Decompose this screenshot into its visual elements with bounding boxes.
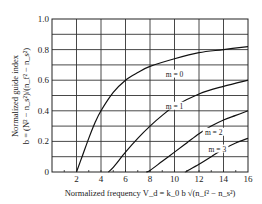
- mode-label: m = 0: [166, 70, 184, 79]
- x-tick-label: 16: [244, 174, 254, 184]
- x-tick-label: 4: [99, 174, 104, 184]
- y-axis-label-line2: b = (N² − n_s²)/(n_f² − n_s²): [21, 48, 31, 145]
- y-tick-label: 1.0: [38, 14, 50, 24]
- x-tick-label: 12: [195, 174, 204, 184]
- chart: 246810121416 00.20.40.60.81.0 m = 0m = 1…: [0, 0, 262, 204]
- y-tick-label: 0: [45, 167, 50, 177]
- mode-label: m = 3: [209, 145, 227, 154]
- x-tick-label: 6: [123, 174, 128, 184]
- curve-m=3: [185, 138, 248, 172]
- mode-label: m = 1: [166, 102, 184, 111]
- x-tick-label: 10: [170, 174, 180, 184]
- y-tick-label: 0.6: [38, 75, 50, 85]
- y-axis-label-line1: Normalized guide index: [10, 54, 20, 137]
- x-tick-label: 8: [148, 174, 153, 184]
- y-tick-label: 0.2: [38, 136, 49, 146]
- y-axis-ticks: 00.20.40.60.81.0: [38, 14, 50, 177]
- x-axis-label: Normalized frequency V_d = k_0 b √(n_f² …: [65, 188, 236, 198]
- x-tick-label: 14: [219, 174, 229, 184]
- mode-label: m = 2: [205, 128, 223, 137]
- x-tick-label: 2: [74, 174, 79, 184]
- y-tick-label: 0.4: [38, 106, 50, 116]
- y-tick-label: 0.8: [38, 45, 50, 55]
